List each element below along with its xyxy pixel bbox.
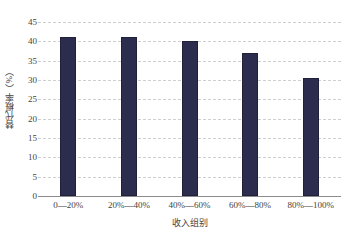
bar[interactable] [242, 53, 258, 196]
y-axis-tick-label: 20 [28, 114, 37, 123]
y-axis-tick-label: 15 [28, 134, 37, 143]
y-axis-tick-label: 10 [28, 153, 37, 162]
x-axis-line [38, 196, 341, 197]
y-axis-tick-label: 40 [28, 37, 37, 46]
x-axis-tick-label: 40%—60% [169, 200, 211, 211]
x-axis-tick-label: 20%—40% [108, 200, 150, 211]
y-axis-tick-label: 0 [33, 192, 38, 201]
y-axis-title: 替代概率（%） [0, 0, 18, 196]
y-axis-title-text: 替代概率（%） [5, 67, 14, 129]
y-axis-tick-labels: 051015202530354045 [17, 0, 37, 238]
y-axis-tick-label: 35 [28, 56, 37, 65]
gridline [38, 22, 341, 23]
bar[interactable] [303, 78, 319, 196]
bar[interactable] [182, 41, 198, 196]
bar-chart-figure: 替代概率（%） 051015202530354045 0—20%20%—40%4… [0, 0, 349, 238]
bar[interactable] [121, 37, 137, 196]
x-axis-tick-label: 60%—80% [229, 200, 271, 211]
plot-area [38, 22, 341, 196]
y-axis-tick-label: 30 [28, 76, 37, 85]
x-axis-title: 收入组别 [38, 216, 341, 229]
bar[interactable] [60, 37, 76, 196]
x-axis-tick-label: 80%—100% [287, 200, 334, 211]
x-axis-tick-label: 0—20% [53, 200, 83, 211]
y-axis-tick-label: 45 [28, 18, 37, 27]
y-axis-tick-label: 25 [28, 95, 37, 104]
x-axis-tick-labels: 0—20%20%—40%40%—60%60%—80%80%—100% [38, 200, 341, 216]
y-axis-tick-label: 5 [33, 172, 38, 181]
